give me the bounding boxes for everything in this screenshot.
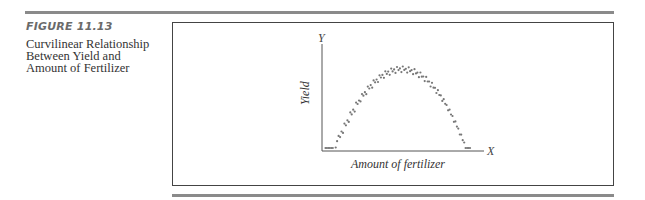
data-point: [405, 68, 407, 70]
data-point: [430, 85, 432, 87]
data-point: [399, 67, 401, 69]
data-point: [368, 87, 370, 89]
bottom-rule: [172, 194, 614, 197]
data-point: [357, 103, 359, 105]
data-points: [324, 65, 471, 149]
data-point: [342, 132, 344, 134]
data-point: [408, 66, 410, 68]
data-point: [456, 126, 458, 128]
data-point: [380, 76, 382, 78]
data-point: [376, 78, 378, 80]
data-point: [434, 87, 436, 89]
data-point: [374, 81, 376, 83]
data-point: [418, 76, 420, 78]
data-point: [364, 91, 366, 93]
data-point: [383, 77, 385, 79]
data-point: [343, 123, 345, 125]
data-point: [378, 74, 380, 76]
data-point: [339, 136, 341, 138]
data-point: [400, 71, 402, 73]
data-point: [335, 146, 337, 148]
data-point: [354, 111, 356, 113]
x-axis-title: Amount of fertilizer: [350, 157, 445, 171]
data-point: [352, 109, 354, 111]
scatter-plot: Y X Yield Amount of fertilizer: [0, 0, 645, 200]
data-point: [387, 71, 389, 73]
data-point: [449, 109, 451, 111]
data-point: [397, 69, 399, 71]
data-point: [394, 72, 396, 74]
data-point: [381, 74, 383, 76]
data-point: [351, 113, 353, 115]
data-point: [365, 93, 367, 95]
data-point: [367, 86, 369, 88]
data-point: [377, 81, 379, 83]
data-point: [370, 84, 372, 86]
data-point: [412, 73, 414, 75]
y-axis-title: Yield: [298, 80, 312, 105]
data-point: [386, 73, 388, 75]
data-point: [373, 79, 375, 81]
data-point: [332, 147, 334, 149]
data-point: [345, 124, 347, 126]
data-point: [359, 100, 361, 102]
data-point: [428, 80, 430, 82]
data-point: [362, 95, 364, 97]
data-point: [413, 68, 415, 70]
data-point: [406, 72, 408, 74]
data-point: [425, 76, 427, 78]
data-point: [349, 111, 351, 113]
data-point: [336, 140, 338, 142]
data-point: [424, 80, 426, 82]
data-point: [396, 66, 398, 68]
data-point: [446, 104, 448, 106]
data-point: [469, 147, 471, 149]
data-point: [411, 69, 413, 71]
data-point: [393, 68, 395, 70]
data-point: [371, 87, 373, 89]
data-point: [329, 147, 331, 149]
data-point: [431, 82, 433, 84]
data-point: [460, 134, 462, 136]
y-axis-letter: Y: [318, 31, 326, 45]
data-point: [348, 121, 350, 123]
data-point: [390, 68, 392, 70]
data-point: [419, 71, 421, 73]
data-point: [457, 128, 459, 130]
data-point: [402, 65, 404, 67]
data-point: [392, 70, 394, 72]
x-axis-letter: X: [486, 144, 495, 158]
data-point: [422, 75, 424, 77]
data-point: [454, 120, 456, 122]
data-point: [462, 139, 464, 141]
data-point: [451, 115, 453, 117]
data-point: [435, 92, 437, 94]
data-point: [389, 74, 391, 76]
data-point: [437, 89, 439, 91]
data-point: [441, 100, 443, 102]
data-point: [443, 98, 445, 100]
data-point: [463, 141, 465, 143]
data-point: [384, 70, 386, 72]
data-point: [416, 72, 418, 74]
data-point: [440, 94, 442, 96]
